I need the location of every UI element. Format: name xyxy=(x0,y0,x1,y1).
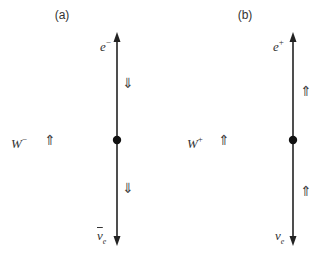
w-symbol: W xyxy=(11,136,22,151)
w-boson-decay-diagram: (a) e− ⇓ ⇓ W− ⇑ νe (b) e+ ⇑ ⇑ W+ ⇑ νe xyxy=(0,0,329,256)
arrowhead-down-icon xyxy=(114,236,121,246)
w-charge: − xyxy=(22,134,27,144)
spin-down-arrow-icon: ⇓ xyxy=(122,181,134,195)
w-charge: + xyxy=(198,134,203,144)
spin-up-arrow-icon: ⇑ xyxy=(300,84,312,98)
panel-b-label: (b) xyxy=(238,8,253,22)
neutrino-label: νe xyxy=(275,229,284,246)
arrowhead-up-icon xyxy=(114,32,121,42)
vertex-dot-b xyxy=(289,136,297,144)
electron-charge: − xyxy=(106,37,111,47)
antineutrino-flavor: e xyxy=(103,237,107,246)
positron-charge: + xyxy=(279,37,284,47)
spin-down-arrow-icon: ⇓ xyxy=(122,76,134,90)
neutrino-flavor: e xyxy=(281,237,285,246)
panel-b-lines xyxy=(289,32,297,246)
panel-a-label: (a) xyxy=(55,8,70,22)
panel-a-lines xyxy=(113,32,121,246)
w-minus-label: W− xyxy=(11,135,27,150)
arrowhead-down-icon xyxy=(290,236,297,246)
electron-label: e− xyxy=(100,38,111,53)
boson-spin-up-arrow-icon: ⇑ xyxy=(218,133,230,147)
arrowhead-up-icon xyxy=(290,32,297,42)
positron-label: e+ xyxy=(273,38,284,53)
antineutrino-label: νe xyxy=(97,229,106,246)
vertex-dot-a xyxy=(113,136,121,144)
w-plus-label: W+ xyxy=(187,135,203,150)
w-symbol: W xyxy=(187,136,198,151)
spin-up-arrow-icon: ⇑ xyxy=(300,184,312,198)
boson-spin-up-arrow-icon: ⇑ xyxy=(44,133,56,147)
